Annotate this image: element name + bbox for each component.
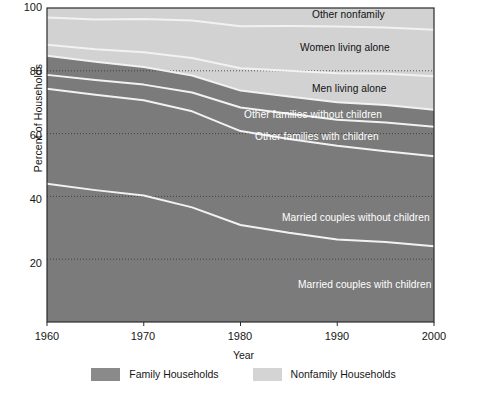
x-axis-title: Year bbox=[0, 349, 487, 361]
x-tick-1960: 1960 bbox=[22, 330, 72, 342]
chart-legend: Family Households Nonfamily Households bbox=[0, 363, 487, 385]
legend-swatch-nonfamily-icon bbox=[253, 368, 282, 381]
band-label-women-living-alone: Women living alone bbox=[300, 42, 390, 53]
legend-item-family-households: Family Households bbox=[91, 368, 218, 381]
x-tick-1980: 1980 bbox=[215, 330, 265, 342]
stacked-area-chart: Percent of Households 100 80 60 40 20 19… bbox=[0, 0, 487, 398]
band-label-men-living-alone: Men living alone bbox=[312, 83, 386, 94]
band-label-other-families-without-children: Other families without children bbox=[244, 109, 382, 120]
legend-label-nonfamily: Nonfamily Households bbox=[291, 368, 396, 380]
legend-swatch-family-icon bbox=[91, 368, 120, 381]
band-label-other-families-with-children: Other families with children bbox=[255, 131, 379, 142]
x-tick-1970: 1970 bbox=[118, 330, 168, 342]
band-label-married-couples-with-children: Married couples with children bbox=[298, 279, 431, 290]
band-label-married-couples-without-children: Married couples without children bbox=[282, 212, 430, 223]
x-tick-2000: 2000 bbox=[409, 330, 459, 342]
x-tick-1990: 1990 bbox=[312, 330, 362, 342]
band-label-other-nonfamily: Other nonfamily bbox=[312, 9, 385, 20]
legend-label-family: Family Households bbox=[129, 368, 218, 380]
legend-item-nonfamily-households: Nonfamily Households bbox=[253, 368, 396, 381]
